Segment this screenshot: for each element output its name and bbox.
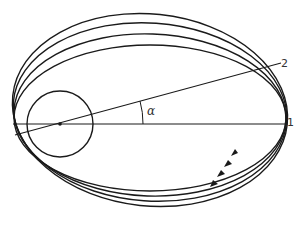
direction-arrow-icon bbox=[217, 170, 225, 177]
focus-dot bbox=[58, 122, 62, 126]
angle-alpha-label: α bbox=[147, 105, 155, 117]
orbit-ellipse-4 bbox=[14, 45, 286, 191]
angle-arc bbox=[140, 101, 143, 124]
point-1-label: 1 bbox=[287, 117, 294, 128]
point-2-label: 2 bbox=[281, 58, 288, 69]
direction-arrow-icon bbox=[231, 149, 238, 156]
direction-arrow-icon bbox=[224, 160, 232, 167]
